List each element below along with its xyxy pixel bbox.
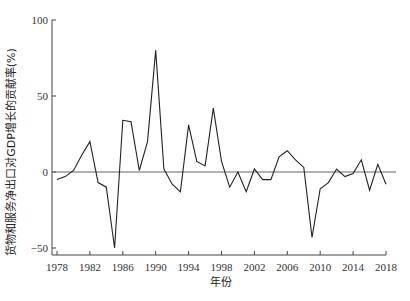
x-tick-label: 1994 <box>178 261 201 273</box>
x-tick-label: 2014 <box>342 261 365 273</box>
x-tick-label: 2002 <box>243 261 265 273</box>
y-tick-label: 0 <box>43 166 49 178</box>
x-tick-label: 1978 <box>46 261 69 273</box>
x-tick-label: 2006 <box>276 261 299 273</box>
y-tick-label: 100 <box>32 14 49 26</box>
x-tick-label: 1998 <box>211 261 234 273</box>
y-axis: −50050100 <box>31 14 56 255</box>
x-tick-label: 1982 <box>79 261 101 273</box>
y-tick-label: −50 <box>31 242 49 254</box>
x-tick-label: 1986 <box>112 261 135 273</box>
x-tick-label: 2010 <box>309 261 332 273</box>
series-line <box>57 50 386 248</box>
x-tick-label: 2018 <box>375 261 398 273</box>
line-chart: −50050100 197819821986199019941998200220… <box>0 0 410 301</box>
x-tick-label: 1990 <box>145 261 168 273</box>
x-axis-title: 年份 <box>210 275 232 289</box>
x-axis: 1978198219861990199419982002200620102014… <box>46 251 398 273</box>
y-tick-label: 50 <box>37 90 49 102</box>
y-axis-title: 货物和服务净出口对GDP增长的贡献率(%) <box>4 48 18 256</box>
